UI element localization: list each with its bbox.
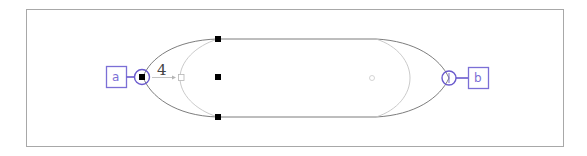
handle-middle-left[interactable] xyxy=(215,74,221,80)
port-b-label: b xyxy=(474,71,482,85)
handle-bottom-left[interactable] xyxy=(215,114,221,120)
diagram-canvas: 4 a b xyxy=(0,0,587,156)
ghost-control-point[interactable] xyxy=(179,75,185,81)
port-a-label: a xyxy=(112,70,119,84)
control-value: 4 xyxy=(157,61,167,79)
handle-top-left[interactable] xyxy=(215,36,221,42)
port-a-handle[interactable] xyxy=(139,74,145,80)
